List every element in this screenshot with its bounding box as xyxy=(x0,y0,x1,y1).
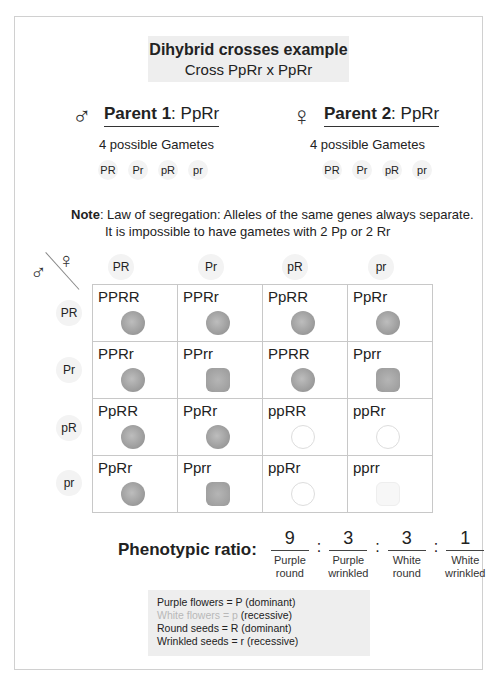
gamete: PR xyxy=(98,160,118,180)
subtitle: Cross PpRr x PpRr xyxy=(148,61,349,78)
note: Note: Law of segregation: Alleles of the… xyxy=(71,206,474,240)
phenotype-line: round xyxy=(265,567,315,580)
parent-2: ♀ Parent 2: PpRr 4 possible Gametes PRPr… xyxy=(292,104,439,180)
title-box: Dihybrid crosses example Cross PpRr x Pp… xyxy=(148,36,349,82)
genotype: ppRr xyxy=(353,402,386,419)
punnett-cell: ppRR xyxy=(263,399,348,456)
genotype: PpRr xyxy=(98,459,132,476)
ratio-part: 1Whitewrinkled xyxy=(440,528,490,580)
table-row: PPRRPPRrPpRRPpRr xyxy=(93,285,433,342)
legend-text: White flowers = p xyxy=(157,609,238,621)
parent-2-gametes: PRPrpRpr xyxy=(322,160,439,180)
ratio-separator: : xyxy=(373,538,381,580)
wrinkled-purple-seed-icon xyxy=(376,368,400,392)
genotype: ppRR xyxy=(268,402,306,419)
ratio-value: 3 xyxy=(329,528,367,551)
ratio-part: 9Purpleround xyxy=(265,528,315,580)
wrinkled-purple-seed-icon xyxy=(206,368,230,392)
punnett-cell: PPRr xyxy=(93,342,178,399)
legend-suffix: (recessive) xyxy=(238,609,292,621)
parent-2-title: Parent 2: PpRr xyxy=(324,104,439,127)
round-purple-seed-icon xyxy=(121,482,145,506)
column-header-pr: pr xyxy=(368,254,394,280)
punnett-cell: PPRR xyxy=(263,342,348,399)
genotype: PpRr xyxy=(183,402,217,419)
genotype: PpRR xyxy=(268,288,308,305)
punnett-cell: PpRr xyxy=(348,285,433,342)
punnett-cell: PPRR xyxy=(93,285,178,342)
legend-box: Purple flowers = P (dominant)White flowe… xyxy=(148,590,370,656)
round-white-seed-icon xyxy=(376,425,400,449)
parent-1: ♂ Parent 1: PpRr 4 possible Gametes PRPr… xyxy=(72,104,219,180)
table-row: PPRrPPrrPPRRPprr xyxy=(93,342,433,399)
punnett-cell: PpRr xyxy=(93,456,178,513)
column-header-PR: PR xyxy=(108,254,134,280)
gamete: Pr xyxy=(128,160,148,180)
round-purple-seed-icon xyxy=(121,368,145,392)
ratio-value: 1 xyxy=(446,528,484,551)
punnett-cell: pprr xyxy=(348,456,433,513)
punnett-cell: Pprr xyxy=(348,342,433,399)
ratio-value: 3 xyxy=(388,528,426,551)
gamete: pR xyxy=(158,160,178,180)
punnett-cell: ppRr xyxy=(263,456,348,513)
gamete: pr xyxy=(412,160,432,180)
parent-1-gametes-label: 4 possible Gametes xyxy=(99,137,219,152)
wrinkled-purple-seed-icon xyxy=(206,482,230,506)
round-white-seed-icon xyxy=(291,425,315,449)
punnett-cell: PpRR xyxy=(93,399,178,456)
round-purple-seed-icon xyxy=(206,425,230,449)
round-purple-seed-icon xyxy=(291,311,315,335)
round-purple-seed-icon xyxy=(206,311,230,335)
ratio-separator: : xyxy=(432,538,440,580)
legend-item: Round seeds = R (dominant) xyxy=(157,622,370,635)
female-icon: ♀ xyxy=(58,248,75,274)
round-white-seed-icon xyxy=(291,482,315,506)
genotype: PPRR xyxy=(98,288,140,305)
gamete: pr xyxy=(188,160,208,180)
legend-item: White flowers = p (recessive) xyxy=(157,609,370,622)
wrinkled-white-seed-icon xyxy=(376,482,400,506)
genotype: PPRR xyxy=(268,345,310,362)
ratio-phenotype: Whitewrinkled xyxy=(440,554,490,580)
punnett-cell: PpRR xyxy=(263,285,348,342)
phenotype-line: wrinkled xyxy=(440,567,490,580)
ratio-part: 3Purplewrinkled xyxy=(323,528,373,580)
round-purple-seed-icon xyxy=(121,311,145,335)
punnett-cell: Pprr xyxy=(178,456,263,513)
phenotype-line: Purple xyxy=(265,554,315,567)
genotype: PPrr xyxy=(183,345,213,362)
gamete: pR xyxy=(382,160,402,180)
legend-text: Purple flowers = P (dominant) xyxy=(157,596,295,608)
genotype: PPRr xyxy=(183,288,219,305)
phenotype-line: White xyxy=(440,554,490,567)
phenotype-line: round xyxy=(382,567,432,580)
column-header-pR: pR xyxy=(282,254,308,280)
genotype: pprr xyxy=(353,459,380,476)
punnett-cell: PpRr xyxy=(178,399,263,456)
legend-text: Round seeds = R (dominant) xyxy=(157,622,292,634)
phenotype-line: Purple xyxy=(323,554,373,567)
punnett-square: PPRRPPRrPpRRPpRrPPRrPPrrPPRRPprrPpRRPpRr… xyxy=(92,284,433,513)
parent-1-gametes: PRPrpRpr xyxy=(98,160,219,180)
ratio-separator: : xyxy=(315,538,323,580)
row-header-PR: PR xyxy=(56,300,82,326)
title: Dihybrid crosses example xyxy=(148,41,349,59)
punnett-cell: ppRr xyxy=(348,399,433,456)
genotype: ppRr xyxy=(268,459,301,476)
male-icon: ♂ xyxy=(30,260,47,286)
round-purple-seed-icon xyxy=(376,311,400,335)
ratio-phenotype: Purpleround xyxy=(265,554,315,580)
row-header-pR: pR xyxy=(56,415,82,441)
genotype: PpRR xyxy=(98,402,138,419)
ratio-label: Phenotypic ratio: xyxy=(118,540,257,560)
legend-text: Wrinkled seeds = r (recessive) xyxy=(157,635,298,647)
punnett-cell: PPrr xyxy=(178,342,263,399)
genotype: PpRr xyxy=(353,288,387,305)
round-purple-seed-icon xyxy=(121,425,145,449)
parent-2-gametes-label: 4 possible Gametes xyxy=(310,137,439,152)
legend-item: Purple flowers = P (dominant) xyxy=(157,596,370,609)
genotype: Pprr xyxy=(353,345,381,362)
genotype: Pprr xyxy=(183,459,211,476)
table-row: PpRrPprrppRrpprr xyxy=(93,456,433,513)
